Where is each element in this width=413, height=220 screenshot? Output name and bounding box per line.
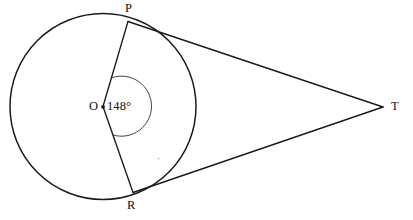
center-point-dot xyxy=(101,105,105,109)
scan-speckle-artifact xyxy=(158,158,160,160)
point-label-r: R xyxy=(127,199,135,212)
radius-or-line xyxy=(103,107,133,193)
center-label-o: O xyxy=(89,100,98,113)
tangent-rt-line xyxy=(133,107,383,193)
point-label-t: T xyxy=(391,100,399,113)
geometry-figure: P R T O 148° xyxy=(0,0,413,220)
geometry-canvas xyxy=(0,0,413,220)
tangent-pt-line xyxy=(128,22,383,108)
radius-op-line xyxy=(103,22,128,107)
point-label-p: P xyxy=(125,2,132,15)
angle-measure-label: 148° xyxy=(107,100,131,113)
